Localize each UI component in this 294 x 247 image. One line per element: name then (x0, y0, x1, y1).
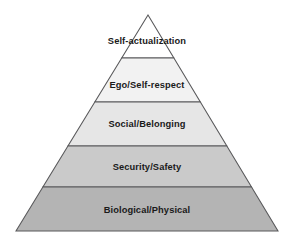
pyramid-level-label-social-belonging: Social/Belonging (0, 120, 294, 129)
pyramid-level-label-self-actualization: Self-actualization (0, 37, 294, 46)
pyramid-level-label-ego-self-respect: Ego/Self-respect (0, 81, 294, 90)
pyramid-level-label-biological-physical: Biological/Physical (0, 206, 294, 215)
pyramid-level-label-security-safety: Security/Safety (0, 163, 294, 172)
pyramid-diagram: Self-actualization Ego/Self-respect Soci… (0, 0, 294, 247)
